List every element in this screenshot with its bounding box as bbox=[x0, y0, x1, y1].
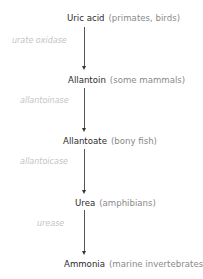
enzyme-allantoinase: allantoinase bbox=[20, 96, 69, 106]
compound-label: Allantoin bbox=[68, 75, 106, 85]
organism-label: (amphibians) bbox=[99, 198, 156, 208]
enzyme-allantoicase: allantoicase bbox=[20, 157, 68, 167]
enzyme-urate-oxidase: urate oxidase bbox=[12, 36, 67, 46]
organism-label: (some mammals) bbox=[110, 75, 185, 85]
arrowhead-icon bbox=[82, 251, 86, 255]
arrow-down-icon bbox=[84, 149, 85, 191]
arrow-down-icon bbox=[84, 210, 85, 252]
organism-label: (primates, birds) bbox=[109, 13, 180, 23]
arrowhead-icon bbox=[82, 128, 86, 132]
node-allantoate: Allantoate(bony fish) bbox=[63, 136, 157, 147]
node-ammonia: Ammonia(marine invertebrates) bbox=[64, 259, 203, 270]
arrowhead-icon bbox=[82, 190, 86, 194]
arrowhead-icon bbox=[82, 66, 86, 70]
arrow-down-icon bbox=[84, 88, 85, 129]
compound-label: Uric acid bbox=[67, 13, 105, 23]
enzyme-urease: urease bbox=[37, 219, 64, 229]
compound-label: Ammonia bbox=[64, 259, 105, 269]
organism-label: (marine invertebrates) bbox=[109, 259, 203, 269]
compound-label: Allantoate bbox=[63, 136, 107, 146]
compound-label: Urea bbox=[75, 198, 95, 208]
node-allantoin: Allantoin(some mammals) bbox=[68, 75, 185, 86]
node-urea: Urea(amphibians) bbox=[75, 198, 156, 209]
arrow-down-icon bbox=[84, 27, 85, 67]
node-uric-acid: Uric acid(primates, birds) bbox=[67, 13, 180, 24]
organism-label: (bony fish) bbox=[111, 136, 157, 146]
